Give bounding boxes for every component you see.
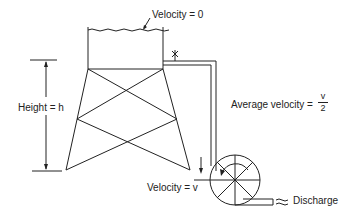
brace bbox=[88, 69, 177, 119]
fraction-numerator: v bbox=[318, 92, 328, 103]
top-velocity-label: Velocity = 0 bbox=[152, 10, 203, 20]
average-velocity-fraction: v 2 bbox=[318, 92, 328, 113]
water-surface bbox=[88, 29, 169, 31]
brace bbox=[66, 119, 177, 170]
bottom-velocity-label: Velocity = v bbox=[147, 183, 198, 193]
discharge-label: Discharge bbox=[293, 196, 338, 206]
discharge-flow-icon bbox=[276, 199, 288, 205]
average-velocity-label: Average velocity = bbox=[231, 100, 313, 110]
height-label: Height = h bbox=[18, 103, 64, 113]
fraction-denominator: 2 bbox=[318, 103, 328, 113]
brace bbox=[77, 119, 190, 170]
brace bbox=[77, 69, 163, 119]
